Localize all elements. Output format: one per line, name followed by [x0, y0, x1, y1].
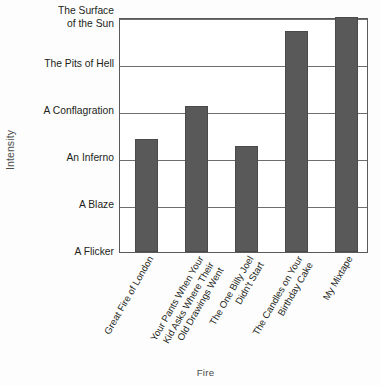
x-axis-title: Fire	[0, 367, 381, 378]
y-axis-tick-label-line: The Surface	[22, 5, 114, 17]
x-axis-tick-label: Your Pants When YourKid Asks Where Their…	[148, 254, 226, 355]
bar[interactable]	[185, 106, 208, 252]
y-axis-tick-label: A Blaze	[22, 199, 114, 211]
bar[interactable]	[235, 146, 258, 252]
bars-layer	[120, 19, 367, 252]
x-axis-tick-label-line: My Mixtape	[321, 254, 356, 302]
bar-chart: Intensity A FlickerA BlazeAn InfernoA Co…	[0, 0, 381, 386]
y-axis-tick-label-line: A Flicker	[22, 246, 114, 258]
y-axis-tick-label: A Flicker	[22, 246, 114, 258]
y-axis-title-text: Intensity	[4, 130, 16, 170]
bar[interactable]	[335, 17, 358, 252]
plot-area	[119, 18, 368, 253]
x-axis-tick-label: Great Fire of London	[102, 254, 156, 336]
y-axis-tick-label: An Inferno	[22, 152, 114, 164]
bar[interactable]	[285, 31, 308, 252]
bar[interactable]	[135, 139, 158, 252]
y-axis-tick-label-line: An Inferno	[22, 152, 114, 164]
y-axis-tick-label-line: The Pits of Hell	[22, 58, 114, 70]
y-axis-tick-label: The Surfaceof the Sun	[22, 5, 114, 30]
y-axis-tick-label-line: of the Sun	[22, 18, 114, 30]
y-axis-tick-label: The Pits of Hell	[22, 58, 114, 70]
x-axis-tick-label: My Mixtape	[321, 254, 356, 302]
x-axis-tick-labels: Great Fire of LondonYour Pants When Your…	[119, 254, 368, 359]
y-axis-title: Intensity	[0, 110, 20, 190]
y-axis-tick-label-line: A Blaze	[22, 199, 114, 211]
x-axis-title-text: Fire	[197, 367, 215, 378]
y-axis-tick-labels: A FlickerA BlazeAn InfernoA Conflagratio…	[22, 0, 114, 260]
y-axis-tick-label-line: A Conflagration	[22, 105, 114, 117]
x-axis-tick-label-line: Great Fire of London	[102, 254, 156, 336]
y-axis-tick-label: A Conflagration	[22, 105, 114, 117]
